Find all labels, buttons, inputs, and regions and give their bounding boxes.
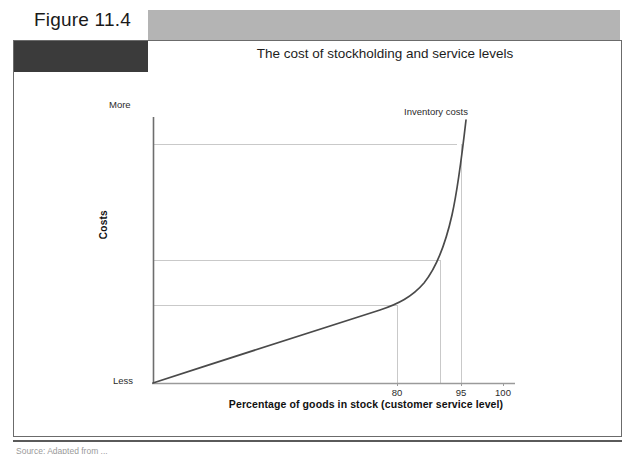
figure-container: Figure 11.4 The cost of stockholding and… bbox=[0, 0, 635, 454]
header-gray-bar bbox=[148, 10, 620, 40]
y-axis-title: Costs bbox=[98, 210, 109, 239]
y-axis-label-more: More bbox=[109, 99, 131, 110]
x-tick-label-100: 100 bbox=[492, 387, 514, 398]
figure-number-label: Figure 11.4 bbox=[34, 9, 131, 31]
series-annotation-inventory-costs: Inventory costs bbox=[404, 106, 468, 117]
x-tick-label-95: 95 bbox=[453, 387, 469, 398]
x-axis-title: Percentage of goods in stock (customer s… bbox=[148, 398, 584, 410]
x-tick-label-80: 80 bbox=[389, 387, 405, 398]
bottom-divider-rule bbox=[13, 440, 622, 442]
y-axis-label-less: Less bbox=[113, 375, 133, 386]
chart-title: The cost of stockholding and service lev… bbox=[148, 46, 622, 61]
bottom-caption-sliver: Source: Adapted from ... bbox=[16, 446, 108, 454]
